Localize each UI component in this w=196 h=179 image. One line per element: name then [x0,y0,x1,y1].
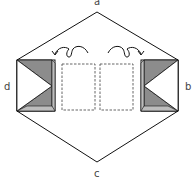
label-a: a [94,0,100,7]
left-fold [17,60,55,111]
label-d: d [4,82,10,92]
right-fold [141,60,178,111]
label-b: b [185,82,191,92]
label-c: c [94,169,100,179]
folding-diagram [0,0,196,179]
